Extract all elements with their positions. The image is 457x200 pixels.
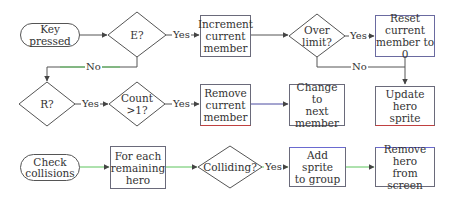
process-for-each-hero: For each remaining hero (110, 146, 166, 189)
label-line: member (295, 117, 339, 129)
start-key-pressed-label: Key pressed (21, 23, 79, 47)
label-line: Update hero (376, 88, 434, 112)
decision-e: E? (108, 12, 166, 57)
label-line: Change to (290, 81, 344, 105)
label-line: member to 0 (376, 36, 434, 60)
label-line: member (203, 111, 247, 123)
decision-over-limit: Over limit? (289, 14, 345, 57)
label-line: hero (126, 174, 150, 186)
label-line: member (203, 42, 247, 54)
label-line: current (206, 99, 246, 111)
process-increment-member: Increment current member (200, 15, 251, 57)
label-line: remaining (111, 162, 165, 174)
edge-label-e-yes: Yes (172, 30, 191, 40)
process-remove-member: Remove current member (200, 84, 251, 126)
label-line: to group (295, 173, 340, 185)
edge-label-limit-no: No (351, 62, 368, 72)
label-line: Remove hero (376, 143, 434, 167)
label-line: >1? (126, 104, 147, 116)
edge-label-colliding-yes: Yes (264, 162, 283, 172)
process-reset-member: Reset current member to 0 (375, 15, 435, 57)
edge-label-limit-yes: Yes (349, 31, 368, 41)
label-line: Over (304, 24, 330, 36)
label-line: Add sprite (290, 149, 345, 173)
edge-label-r-yes: Yes (81, 99, 100, 109)
label-line: Check (33, 157, 66, 168)
decision-colliding-label: Colliding? (203, 161, 257, 173)
start-check-collisions: Check collisions (20, 154, 80, 181)
label-line: collisions (25, 168, 75, 179)
label-line: Reset current (376, 12, 434, 36)
label-line: Remove (204, 87, 247, 99)
decision-count: Count >1? (109, 82, 165, 126)
label-line: limit? (302, 36, 332, 48)
label-line: sprite (390, 112, 421, 124)
process-remove-hero: Remove hero from screen (375, 147, 435, 187)
label-line: next (305, 105, 328, 117)
start-key-pressed: Key pressed (20, 23, 80, 47)
edge-label-e-no: No (85, 62, 102, 72)
decision-e-label: E? (130, 29, 143, 41)
label-line: from screen (376, 167, 434, 191)
label-line: For each (115, 150, 162, 162)
decision-r: R? (19, 82, 75, 126)
process-add-sprite: Add sprite to group (289, 147, 346, 187)
label-line: Count (121, 92, 153, 104)
label-line: Increment (198, 18, 253, 30)
process-update-sprite: Update hero sprite (375, 86, 435, 126)
process-change-member: Change to next member (289, 84, 345, 126)
decision-colliding: Colliding? (198, 146, 262, 188)
edge-label-count-yes: Yes (172, 99, 191, 109)
decision-r-label: R? (40, 98, 54, 110)
label-line: current (206, 30, 246, 42)
